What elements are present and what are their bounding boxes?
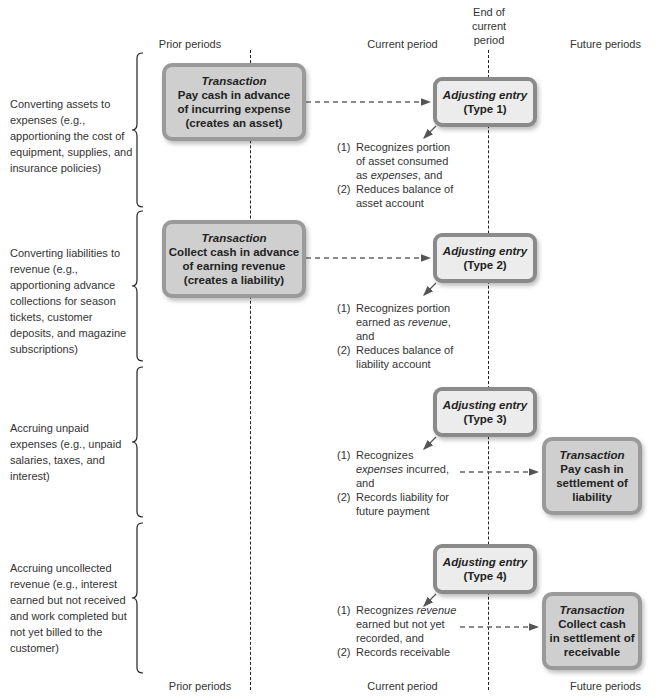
flow-arrows [0,0,663,700]
footer-future-periods: Future periods [558,679,653,693]
footer-prior-periods: Prior periods [150,679,250,693]
footer-current-period: Current period [355,679,450,693]
dashed-arrow-icon [306,102,538,627]
diagonal-arrow-icon [424,126,436,606]
